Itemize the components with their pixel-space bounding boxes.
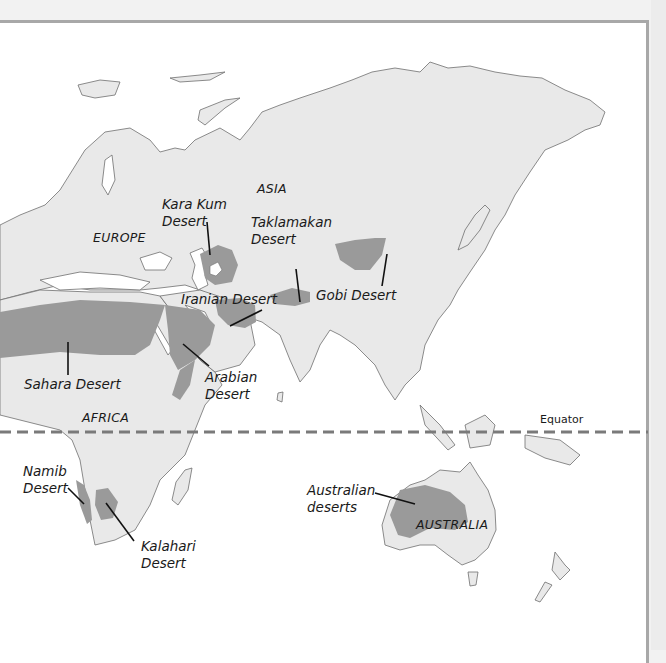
desert-label-australian: Australian deserts bbox=[307, 482, 375, 516]
landmass-madagascar bbox=[172, 468, 192, 505]
desert-label-sahara: Sahara Desert bbox=[24, 376, 121, 393]
landmass-franz-josef bbox=[170, 72, 225, 82]
landmass-sumatra bbox=[420, 405, 455, 450]
landmass-sri-lanka bbox=[277, 392, 283, 402]
desert-label-kara-kum: Kara Kum Desert bbox=[162, 196, 227, 230]
desert-label-taklamakan: Taklamakan Desert bbox=[251, 214, 332, 248]
landmass-tasmania bbox=[468, 572, 478, 586]
desert-sahara bbox=[0, 300, 165, 358]
region-label-asia: ASIA bbox=[257, 181, 287, 196]
region-label-europe: EUROPE bbox=[93, 230, 146, 245]
landmass-new-zealand bbox=[535, 552, 570, 602]
desert-label-iranian: Iranian Desert bbox=[181, 291, 277, 308]
desert-label-kalahari: Kalahari Desert bbox=[141, 538, 196, 572]
region-label-africa: AFRICA bbox=[82, 410, 129, 425]
landmass-new-guinea bbox=[525, 435, 580, 465]
desert-label-arabian: Arabian Desert bbox=[205, 369, 257, 403]
landmass-novaya-zemlya bbox=[198, 98, 240, 125]
region-label-australia: AUSTRALIA bbox=[416, 517, 488, 532]
landmass-svalbard bbox=[78, 80, 120, 98]
desert-label-gobi: Gobi Desert bbox=[316, 287, 396, 304]
equator-label: Equator bbox=[540, 413, 583, 426]
desert-label-namib: Namib Desert bbox=[23, 463, 68, 497]
